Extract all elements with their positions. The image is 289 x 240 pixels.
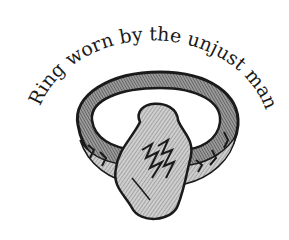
ring-illustration-svg: Ring worn by the unjust man [0, 0, 289, 240]
illustration: Ring worn by the unjust man [0, 0, 289, 240]
ring-icon [77, 72, 238, 219]
